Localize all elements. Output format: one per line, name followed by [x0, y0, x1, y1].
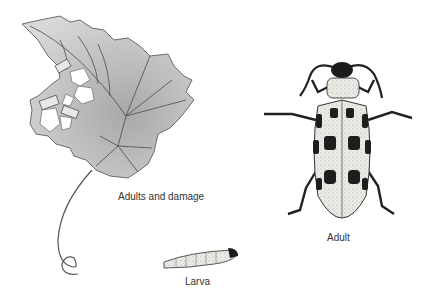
damaged-leaf	[22, 16, 194, 274]
illustration	[0, 0, 434, 295]
adult-beetle	[264, 62, 412, 218]
caption-adult: Adult	[327, 232, 350, 243]
larva	[164, 248, 238, 268]
tendril	[58, 170, 92, 274]
caption-larva: Larva	[185, 276, 210, 287]
caption-adults-and-damage: Adults and damage	[118, 191, 204, 202]
